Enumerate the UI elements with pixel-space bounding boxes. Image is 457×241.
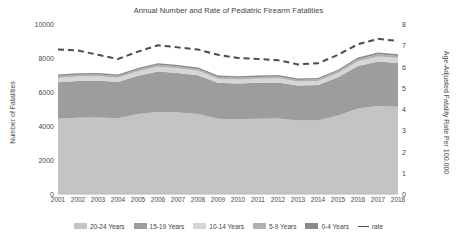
legend-label: 20-24 Years	[90, 223, 125, 230]
x-axis-tick-2003: 2003	[91, 196, 105, 203]
legend-item-10-14-years[interactable]: 10-14 Years	[193, 223, 244, 230]
legend-dashed-line-icon	[358, 226, 369, 227]
x-axis-ticks: 2001200220032004200520062007200820092010…	[58, 196, 398, 210]
x-axis-tick-2008: 2008	[191, 196, 205, 203]
y-axis-left-tick-4000: 4000	[38, 123, 54, 130]
x-axis-tick-2009: 2009	[211, 196, 225, 203]
x-axis-tick-2006: 2006	[151, 196, 165, 203]
y-axis-right-tick-5: 5	[402, 84, 406, 91]
legend-swatch-icon	[253, 223, 266, 229]
legend-swatch-icon	[193, 223, 206, 229]
x-axis-tick-2014: 2014	[311, 196, 325, 203]
plot-svg	[58, 24, 398, 194]
y-axis-left-tick-8000: 8000	[38, 55, 54, 62]
legend-label: 5-9 Years	[269, 223, 296, 230]
legend-label: 15-19 Years	[150, 223, 185, 230]
legend-swatch-icon	[305, 223, 318, 229]
chart-title: Annual Number and Rate of Pediatric Fire…	[0, 6, 457, 15]
y-axis-right-tick-8: 8	[402, 21, 406, 28]
x-axis-tick-2016: 2016	[351, 196, 365, 203]
x-axis-tick-2005: 2005	[131, 196, 145, 203]
x-axis-tick-2015: 2015	[331, 196, 345, 203]
chart-legend: 20-24 Years15-19 Years10-14 Years5-9 Yea…	[0, 219, 457, 233]
y-axis-right-tick-7: 7	[402, 42, 406, 49]
chart-container: Annual Number and Rate of Pediatric Fire…	[0, 0, 457, 241]
x-axis-tick-2007: 2007	[171, 196, 185, 203]
legend-item-15-19-years[interactable]: 15-19 Years	[134, 223, 185, 230]
x-axis-tick-2013: 2013	[291, 196, 305, 203]
area-series-20-24-years	[58, 106, 398, 194]
line-series-rate	[58, 39, 398, 65]
x-axis-tick-2010: 2010	[231, 196, 245, 203]
y-axis-right-tick-2: 2	[402, 148, 406, 155]
x-axis-tick-2002: 2002	[71, 196, 85, 203]
x-axis-tick-2012: 2012	[271, 196, 285, 203]
plot-area	[58, 24, 398, 194]
legend-label: 10-14 Years	[209, 223, 244, 230]
legend-label: rate	[372, 223, 383, 230]
x-axis-tick-2011: 2011	[251, 196, 265, 203]
legend-swatch-icon	[74, 223, 87, 229]
x-axis-tick-2017: 2017	[371, 196, 385, 203]
y-axis-right-tick-4: 4	[402, 106, 406, 113]
y-axis-right-tick-1: 1	[402, 169, 406, 176]
y-axis-right-tick-6: 6	[402, 63, 406, 70]
y-axis-left-tick-10000: 10000	[35, 21, 54, 28]
y-axis-right-ticks: 012345678	[402, 24, 422, 194]
legend-item-20-24-years[interactable]: 20-24 Years	[74, 223, 125, 230]
y-axis-left-title: Number of Fatalities	[9, 53, 16, 173]
y-axis-left-tick-2000: 2000	[38, 157, 54, 164]
y-axis-left-tick-6000: 6000	[38, 89, 54, 96]
x-axis-tick-2001: 2001	[51, 196, 65, 203]
legend-item-5-9-years[interactable]: 5-9 Years	[253, 223, 296, 230]
y-axis-right-tick-3: 3	[402, 127, 406, 134]
y-axis-right-title: Age-Adjusted Fatality Rate Per 100,000	[443, 38, 450, 188]
legend-item-rate[interactable]: rate	[358, 223, 383, 230]
legend-label: 0-4 Years	[321, 223, 348, 230]
legend-swatch-icon	[134, 223, 147, 229]
x-axis-tick-2018: 2018	[391, 196, 405, 203]
legend-item-0-4-years[interactable]: 0-4 Years	[305, 223, 348, 230]
x-axis-tick-2004: 2004	[111, 196, 125, 203]
